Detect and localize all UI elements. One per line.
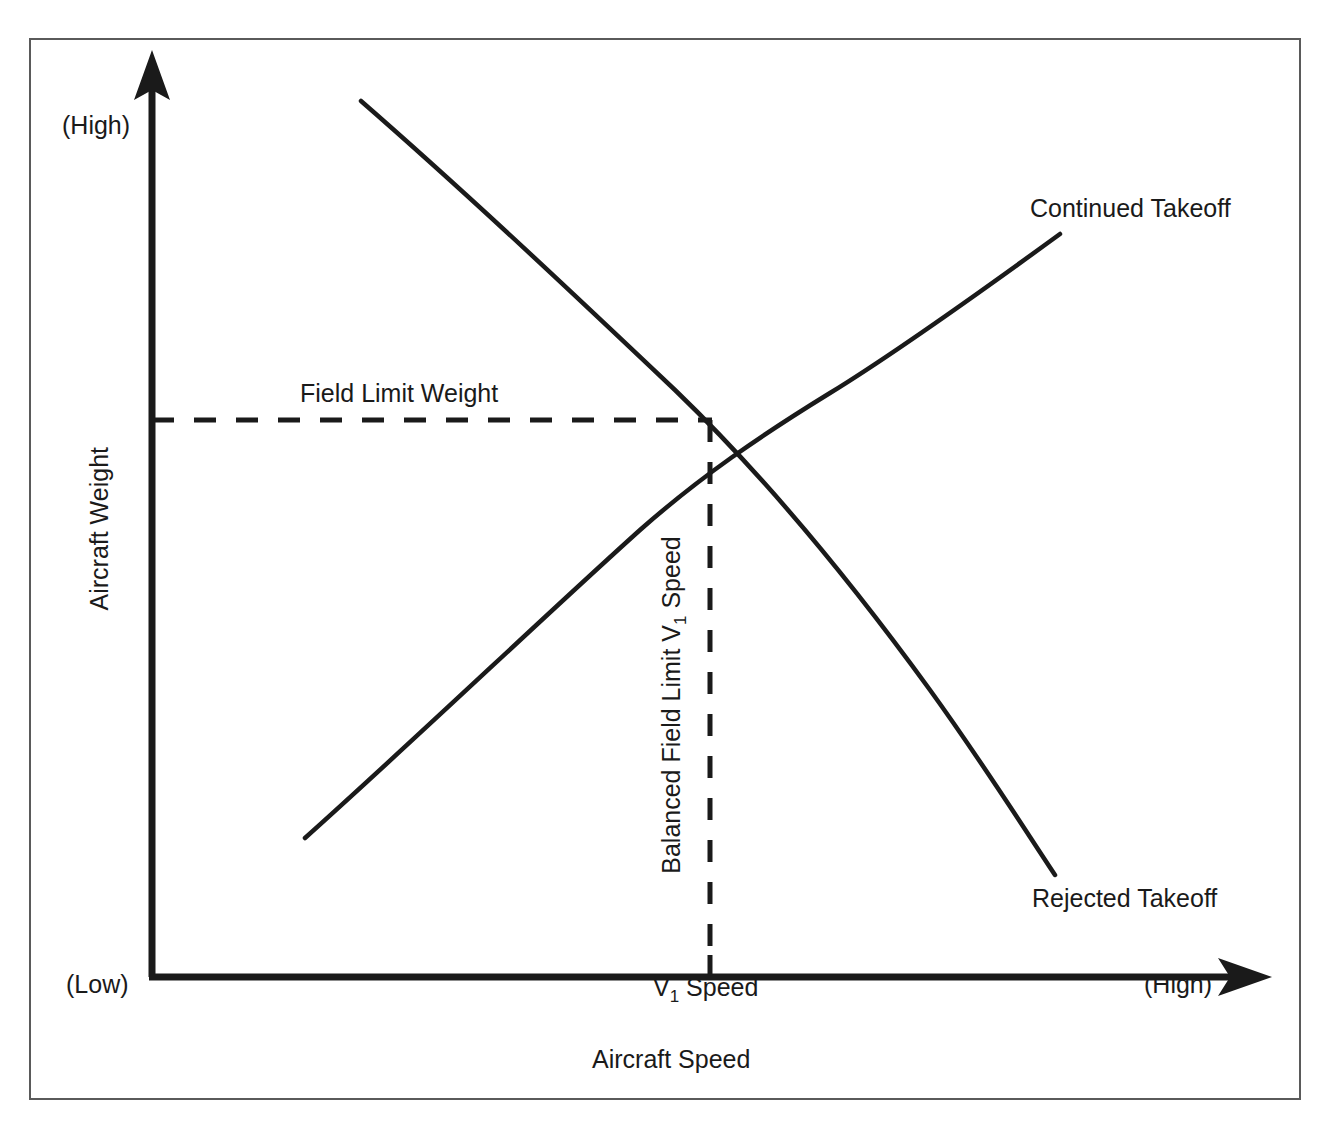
balanced-suffix: Speed	[657, 536, 685, 615]
y-axis-high-label: (High)	[62, 112, 130, 140]
y-axis-low-label: (Low)	[66, 971, 129, 999]
y-axis-title: Aircraft Weight	[86, 409, 114, 649]
v1-speed-tick-label: V1 Speed	[653, 974, 758, 1002]
field-limit-weight-label: Field Limit Weight	[300, 380, 498, 408]
x-axis-high-label: (High)	[1144, 971, 1212, 999]
v1-tick-suffix: Speed	[679, 973, 758, 1001]
v1-tick-prefix: V	[653, 973, 670, 1001]
v1-tick-subscript: 1	[670, 987, 679, 1006]
x-axis-title: Aircraft Speed	[592, 1046, 750, 1074]
balanced-subscript: 1	[671, 616, 690, 625]
rejected-takeoff-label: Rejected Takeoff	[1032, 885, 1217, 913]
balanced-field-limit-v1-speed-label: Balanced Field Limit V1 Speed	[658, 564, 686, 874]
continued-takeoff-label: Continued Takeoff	[1030, 195, 1231, 223]
chart-figure: (High) (Low) (High) Aircraft Weight Airc…	[0, 0, 1326, 1126]
y-axis	[134, 50, 170, 977]
balanced-prefix: Balanced Field Limit V	[657, 625, 685, 874]
